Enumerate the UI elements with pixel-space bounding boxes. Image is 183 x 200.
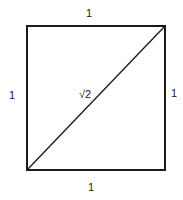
diagonal-line: [27, 26, 165, 170]
left-side-label: 1: [9, 89, 15, 101]
top-side-label: 1: [86, 7, 92, 19]
bottom-side-label: 1: [88, 181, 94, 193]
diagonal-label: √2: [79, 88, 91, 100]
square-diagonal-diagram: 1 1 1 1 √2: [0, 0, 183, 200]
right-side-label: 1: [171, 87, 177, 99]
